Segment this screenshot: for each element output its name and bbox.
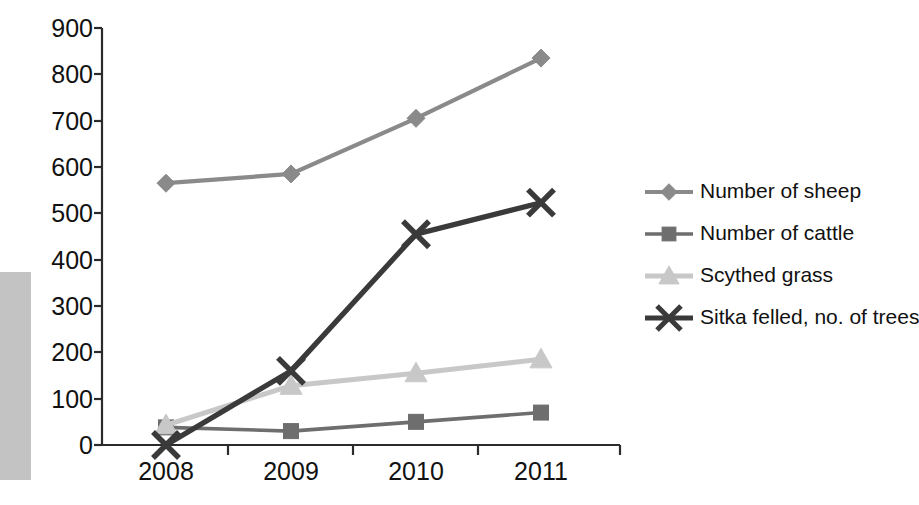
data-point-square — [284, 424, 299, 439]
x-tick-label: 2009 — [263, 457, 319, 485]
legend-item-number-of-cattle: Number of cattle — [645, 221, 854, 244]
data-point-diamond — [532, 49, 550, 67]
data-point-diamond — [407, 109, 425, 127]
legend-item-scythed-grass: Scythed grass — [645, 263, 833, 286]
x-axis-tick-labels: 2008 2009 2010 2011 — [138, 457, 568, 485]
y-tick-label: 900 — [51, 14, 93, 42]
data-point-diamond — [661, 184, 678, 201]
data-series-layer — [153, 49, 554, 458]
chart-figure: 900 800 700 600 500 400 300 200 100 0 — [0, 0, 919, 505]
x-tick-label: 2011 — [514, 457, 568, 485]
legend-label: Sitka felled, no. of trees — [700, 305, 919, 328]
y-tick-label: 0 — [79, 431, 93, 459]
x-tick-label: 2008 — [138, 457, 194, 485]
data-point-square — [409, 414, 424, 429]
y-tick-label: 100 — [51, 385, 93, 413]
series-line — [166, 203, 541, 445]
data-point-square — [534, 405, 549, 420]
legend-label: Number of cattle — [700, 221, 854, 244]
line-chart-plot: 900 800 700 600 500 400 300 200 100 0 — [0, 0, 919, 505]
y-tick-label: 400 — [51, 246, 93, 274]
y-tick-label: 800 — [51, 60, 93, 88]
series-line — [166, 58, 541, 183]
series-scythed-grass — [155, 348, 552, 433]
y-tick-label: 700 — [51, 107, 93, 135]
x-tick-label: 2010 — [388, 457, 444, 485]
y-tick-label: 200 — [51, 338, 93, 366]
legend-label: Number of sheep — [700, 179, 861, 202]
y-axis-tick-labels: 900 800 700 600 500 400 300 200 100 0 — [51, 14, 93, 459]
y-axis — [94, 28, 102, 445]
legend-item-number-of-sheep: Number of sheep — [645, 179, 861, 202]
series-line — [166, 413, 541, 432]
y-tick-label: 600 — [51, 153, 93, 181]
legend-item-sitka-felled-no-of-trees: Sitka felled, no. of trees — [645, 305, 919, 330]
series-number-of-sheep — [157, 49, 550, 192]
y-tick-label: 500 — [51, 199, 93, 227]
y-tick-label: 300 — [51, 292, 93, 320]
chart-legend: Number of sheepNumber of cattleScythed g… — [645, 179, 919, 330]
data-point-square — [662, 227, 676, 241]
data-point-diamond — [157, 174, 175, 192]
data-point-diamond — [282, 165, 300, 183]
x-axis — [102, 445, 620, 455]
legend-label: Scythed grass — [700, 263, 833, 286]
